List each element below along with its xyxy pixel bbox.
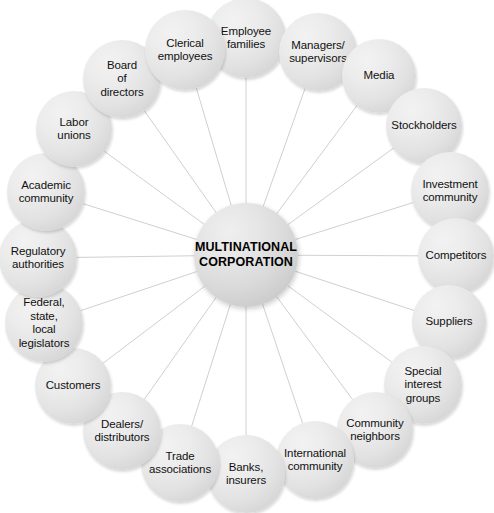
stakeholder-label-clerical-employees: Clerical employees [155, 37, 216, 64]
connector-line-dealers-distributors [144, 297, 217, 400]
hub-label: MULTINATIONAL CORPORATION [195, 240, 297, 270]
connector-line-clerical-employees [196, 87, 231, 206]
connector-line-suppliers [294, 271, 414, 311]
stakeholder-label-trade-associations: Trade associations [146, 450, 214, 477]
connector-line-customers [103, 286, 206, 364]
stakeholder-label-academic-community: Academic community [16, 179, 77, 206]
stakeholder-label-managers-supervisors: Managers/ supervisors [286, 39, 350, 66]
connector-line-special-interest-groups [287, 285, 392, 362]
connector-line-labor-unions [104, 151, 205, 225]
stakeholder-label-media: Media [361, 69, 398, 83]
stakeholder-label-banks-insurers: Banks, insurers [223, 461, 269, 488]
stakeholder-label-customers: Customers [43, 379, 104, 393]
stakeholder-label-dealers-distributors: Dealers/ distributors [91, 418, 152, 445]
stakeholder-label-stockholders: Stockholders [388, 119, 459, 133]
hub-node-multinational-corporation[interactable]: MULTINATIONAL CORPORATION [194, 203, 298, 307]
stakeholder-label-competitors: Competitors [423, 249, 490, 263]
stakeholder-label-board-of-directors: Board of directors [97, 59, 146, 100]
connector-line-regulatory-authorities [76, 256, 195, 258]
stakeholder-node-banks-insurers[interactable]: Banks, insurers [207, 435, 285, 513]
stakeholder-label-suppliers: Suppliers [422, 315, 475, 329]
stakeholder-node-regulatory-authorities[interactable]: Regulatory authorities [0, 219, 77, 297]
stakeholder-label-regulatory-authorities: Regulatory authorities [8, 245, 69, 272]
connector-line-community-neighbors [276, 296, 353, 400]
stakeholder-label-employee-families: Employee families [218, 25, 274, 52]
connector-line-media [276, 105, 357, 214]
connector-line-trade-associations [191, 304, 230, 427]
stakeholder-label-labor-unions: Labor unions [54, 116, 93, 143]
stakeholder-label-special-interest-groups: Special interest groups [401, 365, 444, 406]
stakeholder-label-community-neighbors: Community neighbors [343, 417, 406, 444]
connector-line-board-of-directors [144, 110, 217, 213]
connector-line-academic-community [82, 203, 197, 239]
stakeholder-label-investment-community: Investment community [419, 178, 480, 205]
connector-line-investment-community [295, 202, 414, 239]
stakeholder-node-international-community[interactable]: International community [276, 421, 354, 499]
connector-line-managers-supervisors [263, 88, 305, 207]
stakeholder-label-international-community: International community [281, 447, 349, 474]
stakeholder-label-federal-state-local-legislators: Federal, state, local legislators [16, 296, 73, 350]
connector-line-international-community [262, 303, 303, 424]
stakeholder-node-competitors[interactable]: Competitors [418, 218, 494, 294]
connector-line-competitors [297, 255, 419, 256]
stakeholder-node-clerical-employees[interactable]: Clerical employees [145, 10, 225, 90]
